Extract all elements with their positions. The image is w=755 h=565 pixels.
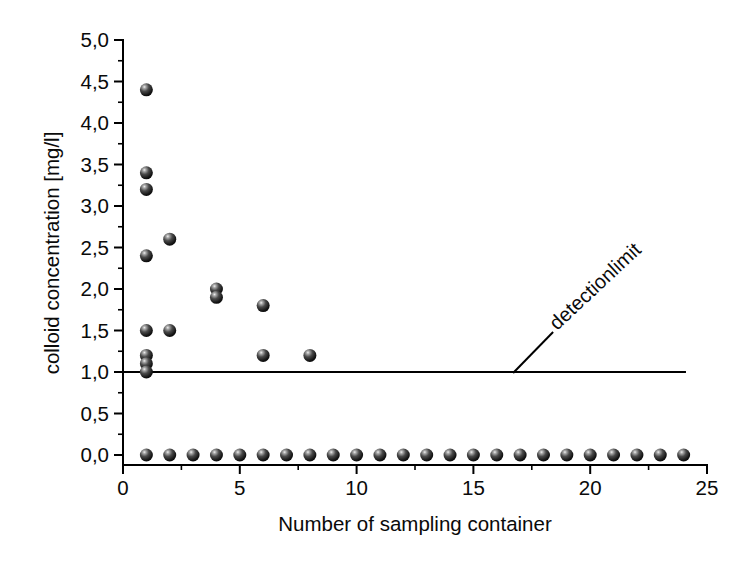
y-tick-label: 2,0 — [81, 277, 110, 300]
x-tick-label: 0 — [117, 476, 128, 499]
data-point — [607, 449, 620, 462]
data-point — [210, 291, 223, 304]
data-point — [490, 449, 503, 462]
x-tick-label: 25 — [696, 476, 719, 499]
data-point — [584, 449, 597, 462]
data-point — [210, 449, 223, 462]
data-point — [140, 366, 153, 379]
data-point — [163, 324, 176, 337]
data-point — [140, 166, 153, 179]
data-point — [140, 449, 153, 462]
scatter-chart: 0,00,51,01,52,02,53,03,54,04,55,00510152… — [0, 0, 755, 565]
data-point — [140, 249, 153, 262]
data-point — [350, 449, 363, 462]
y-tick-label: 3,5 — [81, 153, 110, 176]
detection-limit-layer — [123, 332, 686, 373]
detection-limit-leader-line — [513, 332, 553, 373]
data-point — [654, 449, 667, 462]
data-point — [303, 449, 316, 462]
x-axis-title: Number of sampling container — [278, 512, 552, 535]
y-axis-title: colloid concentration [mg/l] — [40, 132, 63, 375]
data-point — [444, 449, 457, 462]
y-tick-label: 4,5 — [81, 70, 110, 93]
y-tick-label: 2,5 — [81, 236, 110, 259]
y-tick-label: 0,0 — [81, 443, 110, 466]
data-point — [420, 449, 433, 462]
data-point — [280, 449, 293, 462]
data-point — [140, 183, 153, 196]
data-point — [303, 349, 316, 362]
data-point — [140, 83, 153, 96]
y-tick-label: 0,5 — [81, 402, 110, 425]
data-point — [373, 449, 386, 462]
data-point — [514, 449, 527, 462]
data-point — [257, 449, 270, 462]
y-tick-label: 4,0 — [81, 111, 110, 134]
data-point — [677, 449, 690, 462]
data-point — [560, 449, 573, 462]
x-tick-label: 20 — [579, 476, 602, 499]
data-point — [327, 449, 340, 462]
x-tick-label: 5 — [234, 476, 245, 499]
data-point — [163, 233, 176, 246]
x-tick-label: 10 — [345, 476, 368, 499]
data-point — [397, 449, 410, 462]
y-tick-label: 3,0 — [81, 194, 110, 217]
y-tick-label: 5,0 — [81, 28, 110, 51]
data-point — [630, 449, 643, 462]
data-point — [140, 324, 153, 337]
x-tick-label: 15 — [462, 476, 485, 499]
data-point — [537, 449, 550, 462]
data-point — [257, 299, 270, 312]
y-tick-label: 1,5 — [81, 319, 110, 342]
y-tick-label: 1,0 — [81, 360, 110, 383]
data-point — [233, 449, 246, 462]
scatter-plot-figure: 0,00,51,01,52,02,53,03,54,04,55,00510152… — [0, 0, 755, 565]
data-point — [257, 349, 270, 362]
data-point — [187, 449, 200, 462]
data-point — [467, 449, 480, 462]
detection-limit-label: detectionlimit — [545, 238, 646, 334]
data-point — [163, 449, 176, 462]
